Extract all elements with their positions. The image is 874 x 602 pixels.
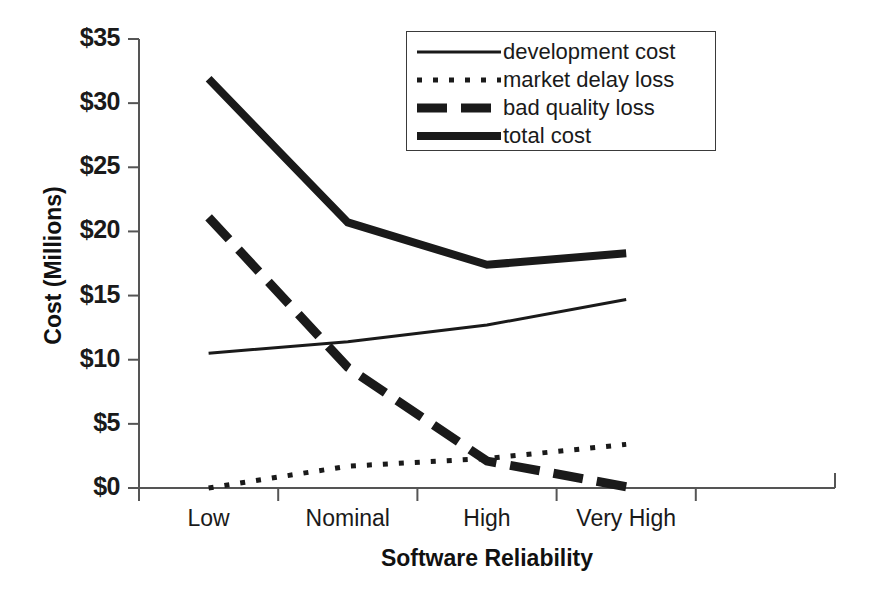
y-axis-tick-label: $30	[0, 87, 120, 116]
series-line-development-cost	[209, 299, 627, 353]
y-axis-tick-label: $5	[0, 408, 120, 437]
chart-legend: development costmarket delay lossbad qua…	[406, 31, 716, 151]
legend-item: development cost	[407, 38, 715, 66]
solid-thick-line-swatch	[417, 126, 501, 146]
legend-item: bad quality loss	[407, 94, 715, 122]
legend-item-label: development cost	[503, 41, 675, 63]
y-axis-tick-label: $0	[0, 472, 120, 501]
dotted-line-swatch	[417, 70, 501, 90]
legend-item-label: bad quality loss	[503, 97, 655, 119]
legend-item-label: market delay loss	[503, 69, 674, 91]
legend-item-label: total cost	[503, 125, 591, 147]
y-axis-title: Cost (Millions)	[40, 151, 67, 381]
legend-item: market delay loss	[407, 66, 715, 94]
legend-item: total cost	[407, 122, 715, 150]
solid-thin-line-swatch	[417, 42, 501, 62]
series-line-market-delay-loss	[209, 444, 627, 488]
y-axis-tick-label: $35	[0, 23, 120, 52]
y-axis-ticks	[128, 39, 139, 488]
line-chart: $0$5$10$15$20$25$30$35 LowNominalHighVer…	[0, 0, 874, 602]
dashed-thick-line-swatch	[417, 98, 501, 118]
x-axis-ticks	[139, 488, 696, 501]
x-axis-category-label: Very High	[526, 505, 726, 532]
x-axis-title: Software Reliability	[139, 545, 835, 572]
